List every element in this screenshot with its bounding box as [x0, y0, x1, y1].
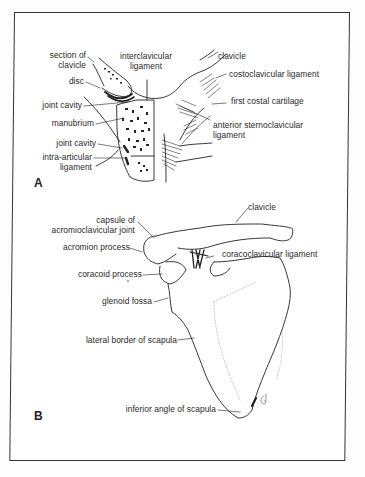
- label-lateral-border: lateral border of scapula: [60, 336, 177, 346]
- label-section-of-clavicle-line2: clavicle: [38, 61, 86, 71]
- label-disc: disc: [50, 77, 84, 87]
- label-intra-articular-line2: ligament: [30, 163, 92, 173]
- label-capsule-line2: acromioclavicular joint: [30, 226, 135, 236]
- label-acromion-process: acromion process: [40, 243, 130, 253]
- label-clavicle-a: clavicle: [218, 52, 246, 62]
- label-manubrium: manubrium: [40, 119, 94, 129]
- label-interclavicular-line2: ligament: [110, 62, 182, 72]
- label-costoclavicular-ligament: costoclavicular ligament: [229, 70, 319, 80]
- label-joint-cavity-upper: joint cavity: [30, 101, 82, 111]
- label-coracoclavicular-ligament: coracoclavicular ligament: [222, 250, 317, 260]
- label-joint-cavity-lower: joint cavity: [40, 139, 96, 149]
- label-first-costal-cartilage: first costal cartilage: [231, 97, 304, 107]
- label-inferior-angle: inferior angle of scapula: [100, 405, 216, 415]
- panel-label-a: A: [34, 176, 43, 190]
- artist-signature: [261, 394, 266, 404]
- label-coracoid-process: coracoid process: [60, 270, 142, 280]
- label-glenoid-fossa: glenoid fossa: [80, 297, 152, 307]
- label-anterior-sternoclavicular-line2: ligament: [213, 131, 245, 141]
- label-clavicle-b: clavicle: [248, 203, 276, 213]
- panel-label-b: B: [34, 409, 43, 423]
